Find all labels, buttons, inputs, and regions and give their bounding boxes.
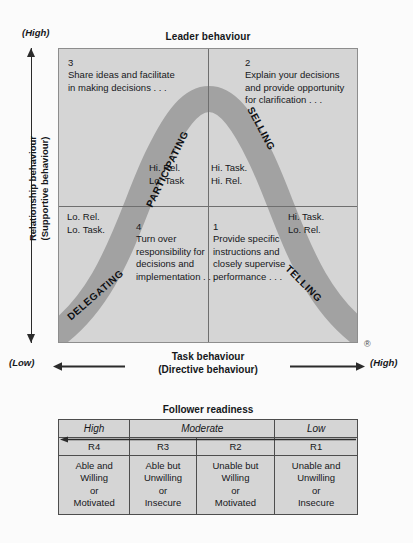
grid-horizontal-divider: [59, 206, 358, 207]
readiness-desc-r3-line1: Able but: [132, 460, 193, 472]
readiness-desc-r1-line3: or: [277, 485, 355, 497]
readiness-level-low: Low: [275, 420, 358, 438]
readiness-desc-r2-line4: Motivated: [199, 497, 273, 509]
readiness-desc-r3-line4: Insecure: [132, 497, 193, 509]
readiness-desc-r3-line2: Unwilling: [132, 472, 193, 484]
quadrant-3-number: 3: [68, 57, 176, 69]
y-axis-up-arrow-icon: [27, 48, 35, 57]
quadrant-2-number: 2: [245, 57, 357, 69]
quadrant-4-text: Turn over responsibility for decisions a…: [136, 233, 216, 281]
readiness-desc-r3-line3: or: [132, 485, 193, 497]
mix-delegating: Lo. Rel. Lo. Task.: [67, 211, 105, 237]
follower-readiness-table: High Moderate Low R4 R3 R2 R1 Able and W…: [58, 419, 358, 515]
readiness-desc-r4: Able and Willing or Motivated: [59, 456, 130, 515]
x-axis-right-arrow-icon: [290, 362, 365, 371]
readiness-desc-r2-line1: Unable but: [199, 460, 273, 472]
readiness-level-high: High: [59, 420, 130, 438]
quadrant-1-text: Provide specific instructions and closel…: [213, 233, 285, 281]
x-axis-title-line2: (Directive behaviour): [120, 364, 296, 377]
mix-telling-line2: Lo. Rel.: [288, 224, 324, 237]
x-axis-low-label-text: (Low): [9, 357, 34, 368]
x-axis-low-label: (Low): [9, 357, 34, 368]
mix-telling-line1: Hi. Task.: [288, 211, 324, 224]
readiness-desc-r2-line3: or: [199, 485, 273, 497]
y-axis-title: Relationship behaviour (Supportive behav…: [27, 89, 50, 289]
mix-delegating-line2: Lo. Task.: [67, 224, 105, 237]
readiness-desc-r4-line2: Willing: [61, 472, 127, 484]
readiness-description-row: Able and Willing or Motivated Able but U…: [59, 456, 358, 515]
quadrant-3-text: Share ideas and facilitate in making dec…: [68, 69, 175, 92]
readiness-desc-r1-line2: Unwilling: [277, 472, 355, 484]
y-axis-down-arrow-icon: [27, 334, 35, 343]
y-axis-high-label-text: (High): [22, 27, 49, 38]
readiness-desc-r2: Unable but Willing or Motivated: [196, 456, 275, 515]
readiness-desc-r1-line4: Insecure: [277, 497, 355, 509]
mix-telling: Hi. Task. Lo. Rel.: [288, 211, 324, 237]
mix-selling: Hi. Task. Hi. Rel.: [211, 162, 247, 188]
follower-readiness-title: Follower readiness: [58, 404, 358, 415]
readiness-desc-r1-line1: Unable and: [277, 460, 355, 472]
mix-selling-line2: Hi. Rel.: [211, 175, 247, 188]
x-axis-title: Task behaviour (Directive behaviour): [120, 351, 296, 376]
x-axis-high-label-text: (High): [370, 357, 397, 368]
readiness-desc-r4-line1: Able and: [61, 460, 127, 472]
readiness-desc-r3: Able but Unwilling or Insecure: [130, 456, 196, 515]
mix-delegating-line1: Lo. Rel.: [67, 211, 105, 224]
quadrant-2: 2 Explain your decisions and provide opp…: [245, 57, 357, 107]
quadrant-2-text: Explain your decisions and provide oppor…: [245, 69, 344, 105]
readiness-desc-r2-line2: Willing: [199, 472, 273, 484]
leader-behaviour-title: Leader behaviour: [58, 31, 358, 42]
readiness-level-moderate: Moderate: [130, 420, 275, 438]
readiness-level-row: High Moderate Low: [59, 420, 358, 438]
readiness-direction-arrow-icon: [60, 436, 356, 443]
readiness-desc-r1: Unable and Unwilling or Insecure: [275, 456, 358, 515]
y-axis-high-label: (High): [22, 27, 49, 38]
readiness-desc-r4-line3: or: [61, 485, 127, 497]
readiness-desc-r4-line4: Motivated: [61, 497, 127, 509]
x-axis-left-arrow-icon: [53, 362, 125, 371]
grid-vertical-divider: [208, 49, 209, 343]
x-axis-high-label: (High): [370, 357, 397, 368]
quadrant-3: 3 Share ideas and facilitate in making d…: [68, 57, 176, 94]
mix-selling-line1: Hi. Task.: [211, 162, 247, 175]
y-axis-title-line2: (Supportive behaviour): [38, 89, 50, 289]
x-axis-title-line1: Task behaviour: [120, 351, 296, 364]
leadership-grid: 3 Share ideas and facilitate in making d…: [58, 48, 358, 343]
registered-trademark-icon: ®: [364, 339, 371, 349]
situational-leadership-figure: Leader behaviour 3 Share ideas and facil…: [0, 0, 413, 543]
y-axis-title-line1: Relationship behaviour: [27, 89, 39, 289]
